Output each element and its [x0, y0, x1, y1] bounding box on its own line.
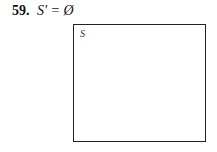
problem-number: 59.: [12, 3, 30, 18]
universal-set-box: S: [73, 24, 206, 142]
set-expression: S' = Ø: [37, 3, 74, 18]
problem-statement: 59. S' = Ø: [12, 3, 74, 19]
universal-set-label: S: [80, 28, 85, 39]
